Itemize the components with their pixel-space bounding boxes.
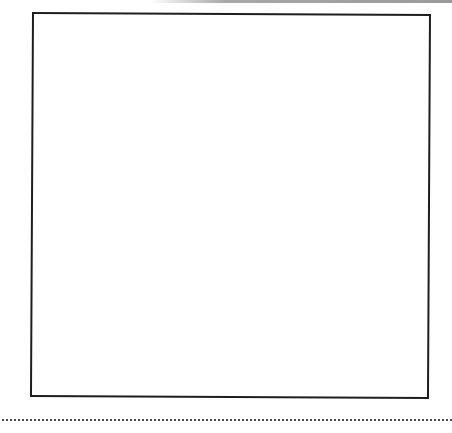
scan-edge-shadow (150, 0, 452, 3)
answer-box (30, 12, 431, 399)
dotted-rule-line (2, 419, 452, 421)
